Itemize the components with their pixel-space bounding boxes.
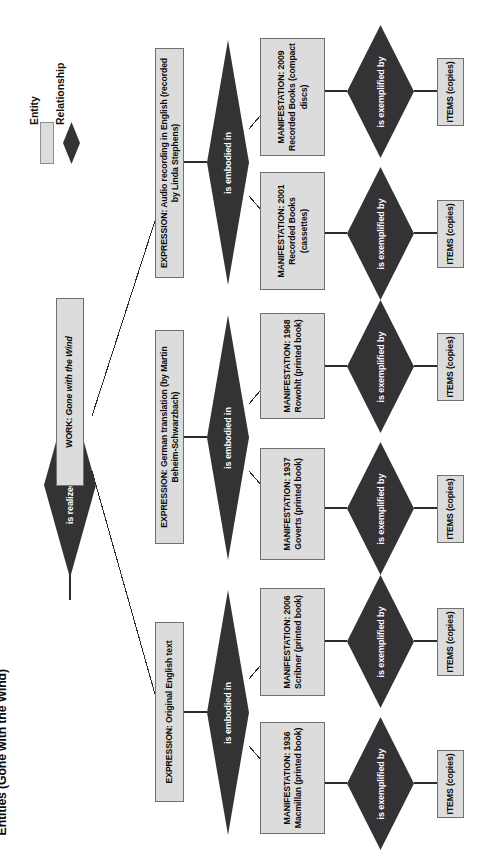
relationship-is-embodied-in-3[interactable]: is embodied in: [207, 40, 249, 285]
entity-expression-original[interactable]: EXPRESSION: Original English text: [155, 622, 184, 802]
entity-work[interactable]: WORK: Gone with the Wind: [56, 298, 84, 486]
entity-manifestation-2006-scribner-label: MANIFESTATION: 2006 Scribner (printed bo…: [272, 592, 314, 692]
entity-items-2[interactable]: ITEMS (copies): [437, 608, 464, 676]
entity-manifestation-2009-recorded-books[interactable]: MANIFESTATION: 2009 Recorded Books (comp…: [260, 38, 325, 156]
entity-items-5-label: ITEMS (copies): [444, 202, 458, 266]
entity-manifestation-1937-goverts-label: MANIFESTATION: 1937 Goverts (printed boo…: [272, 452, 314, 556]
entity-items-3-label: ITEMS (copies): [444, 477, 458, 541]
relationship-is-exemplified-by-2[interactable]: is exemplified by: [347, 575, 414, 708]
entity-manifestation-1968-rowohlt[interactable]: MANIFESTATION: 1968 Rowohlt (printed boo…: [260, 313, 325, 419]
relationship-is-embodied-in-3-label: is embodied in: [220, 103, 236, 223]
entity-manifestation-1937-goverts[interactable]: MANIFESTATION: 1937 Goverts (printed boo…: [260, 448, 325, 560]
entity-items-6[interactable]: ITEMS (copies): [437, 58, 464, 126]
relationship-is-exemplified-by-5[interactable]: is exemplified by: [347, 167, 414, 300]
entity-expression-german-label: EXPRESSION: German translation (by Marti…: [157, 334, 183, 540]
relationship-is-exemplified-by-1[interactable]: is exemplified by: [347, 717, 414, 850]
entity-items-1-label: ITEMS (copies): [444, 752, 458, 816]
entity-work-label: WORK: Gone with the Wind: [58, 302, 82, 482]
entity-manifestation-2001-recorded-books[interactable]: MANIFESTATION: 2001 Recorded Books (cass…: [260, 172, 325, 290]
entity-expression-audio-label: EXPRESSION: Audio recording in English (…: [157, 52, 183, 274]
relationship-is-exemplified-by-1-label: is exemplified by: [373, 724, 389, 844]
entity-items-2-label: ITEMS (copies): [444, 610, 458, 674]
entity-manifestation-1936-macmillan[interactable]: MANIFESTATION: 1936 Macmillan (printed b…: [260, 722, 325, 834]
entity-items-1[interactable]: ITEMS (copies): [437, 750, 464, 818]
entity-manifestation-2006-scribner[interactable]: MANIFESTATION: 2006 Scribner (printed bo…: [260, 588, 325, 696]
entity-manifestation-1968-rowohlt-label: MANIFESTATION: 1968 Rowohlt (printed boo…: [272, 317, 314, 415]
relationship-is-exemplified-by-3[interactable]: is exemplified by: [347, 442, 414, 575]
entity-items-3[interactable]: ITEMS (copies): [437, 475, 464, 543]
relationship-is-exemplified-by-3-label: is exemplified by: [373, 449, 389, 569]
relationship-is-embodied-in-1[interactable]: is embodied in: [207, 590, 249, 835]
entity-items-5[interactable]: ITEMS (copies): [437, 200, 464, 268]
entity-manifestation-2009-recorded-books-label: MANIFESTATION: 2009 Recorded Books (comp…: [272, 42, 314, 152]
entity-items-4[interactable]: ITEMS (copies): [437, 333, 464, 401]
entity-expression-german[interactable]: EXPRESSION: German translation (by Marti…: [155, 330, 184, 544]
entity-items-6-label: ITEMS (copies): [444, 60, 458, 124]
relationship-is-exemplified-by-2-label: is exemplified by: [373, 582, 389, 702]
entity-manifestation-2001-recorded-books-label: MANIFESTATION: 2001 Recorded Books (cass…: [272, 176, 314, 286]
entity-items-4-label: ITEMS (copies): [444, 335, 458, 399]
entity-expression-audio[interactable]: EXPRESSION: Audio recording in English (…: [155, 48, 184, 278]
relationship-is-exemplified-by-6-label: is exemplified by: [373, 32, 389, 152]
entity-manifestation-1936-macmillan-label: MANIFESTATION: 1936 Macmillan (printed b…: [272, 726, 314, 830]
relationship-is-embodied-in-2-label: is embodied in: [220, 378, 236, 498]
relationship-is-embodied-in-1-label: is embodied in: [220, 653, 236, 773]
relationship-is-exemplified-by-4-label: is exemplified by: [373, 307, 389, 427]
relationship-is-exemplified-by-4[interactable]: is exemplified by: [347, 300, 414, 433]
relationship-is-embodied-in-2[interactable]: is embodied in: [207, 315, 249, 560]
relationship-is-exemplified-by-5-label: is exemplified by: [373, 174, 389, 294]
relationship-is-exemplified-by-6[interactable]: is exemplified by: [347, 25, 414, 158]
entity-expression-original-label: EXPRESSION: Original English text: [163, 626, 177, 798]
